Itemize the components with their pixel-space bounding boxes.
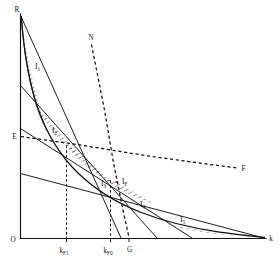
y-axis-label: R xyxy=(15,6,20,14)
origin-label: O xyxy=(10,236,15,244)
x-marker-g: G xyxy=(127,246,132,254)
budget-line-1 xyxy=(21,17,121,238)
budget-line-2 xyxy=(21,86,158,239)
budget-line-3 xyxy=(21,129,193,239)
x-marker-kf1: kF1 xyxy=(59,247,68,256)
dashed-line-NG xyxy=(92,45,130,238)
x-axis-label: k xyxy=(269,235,273,243)
x-marker-kf0: kF0 xyxy=(103,247,112,256)
dashed-line-f-label: F xyxy=(242,165,246,173)
hatch-region-i1-outline xyxy=(21,18,47,131)
region-i3-equals: = xyxy=(115,178,119,187)
region-if-label: IF xyxy=(122,177,128,187)
region-i4-label: I4 xyxy=(140,200,146,210)
labels-group: R k O N E F I1 I2 I3 = IF I4 I5 kF1 kF0 … xyxy=(10,6,273,256)
region-i1-label: I1 xyxy=(35,62,41,72)
figure-root: R k O N E F I1 I2 I3 = IF I4 I5 kF1 kF0 … xyxy=(0,0,280,269)
economics-diagram: R k O N E F I1 I2 I3 = IF I4 I5 kF1 kF0 … xyxy=(0,0,280,269)
dashed-line-e-label: E xyxy=(12,133,17,141)
hatch-region-i1 xyxy=(21,18,47,131)
hatch-region-i3 xyxy=(64,143,115,185)
dashed-line-n-label: N xyxy=(88,34,94,42)
